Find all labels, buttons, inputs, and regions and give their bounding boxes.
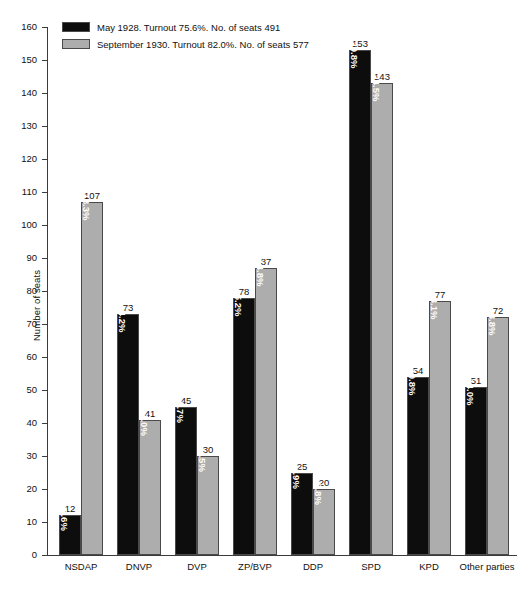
bar-percent-label: 15.2% (233, 289, 244, 316)
bar-group: 7815.2%8714.8%ZP/BVP (233, 27, 277, 555)
y-axis-tick (42, 159, 48, 160)
bar-percent-label: 4.5% (197, 450, 208, 472)
x-axis-category-label: Other parties (427, 561, 522, 572)
bar: 417.0% (139, 420, 161, 555)
bar-percent-label: 10.8% (407, 368, 418, 395)
bar-percent-label: 2.6% (59, 510, 70, 532)
bar: 15329.8% (349, 50, 371, 555)
bar-chart: Number of seats 010203040506070809010011… (0, 0, 522, 590)
bar-percent-label: 13.8% (487, 309, 498, 336)
legend-item: September 1930. Turnout 82.0%. No. of se… (62, 36, 309, 52)
bar-percent-label: 14.2% (117, 306, 128, 333)
y-axis-tick-label: 40 (4, 418, 37, 428)
y-axis-tick-label: 10 (4, 517, 37, 527)
bar: 254.9% (291, 473, 313, 556)
y-axis-tick (42, 27, 48, 28)
bar-group: 254.9%203.8%DDP (291, 27, 335, 555)
legend-swatch (62, 22, 90, 32)
y-axis-tick-label: 130 (4, 121, 37, 131)
y-axis-tick (42, 324, 48, 325)
legend: May 1928. Turnout 75.6%. No. of seats 49… (62, 19, 309, 53)
y-axis-tick-label: 100 (4, 220, 37, 230)
y-axis-tick (42, 357, 48, 358)
y-axis-tick-label: 70 (4, 319, 37, 329)
bar: 8714.8% (255, 268, 277, 555)
y-axis-tick (42, 390, 48, 391)
y-axis-tick (42, 423, 48, 424)
bar-group: 5410.8%7713.1%KPD (407, 27, 451, 555)
y-axis-tick (42, 60, 48, 61)
legend-label: May 1928. Turnout 75.6%. No. of seats 49… (97, 22, 280, 33)
y-axis-tick-label: 140 (4, 88, 37, 98)
bar-group: 15329.8%14324.5%SPD (349, 27, 393, 555)
y-axis-tick-label: 150 (4, 55, 37, 65)
y-axis-tick (42, 291, 48, 292)
y-axis-tick (42, 93, 48, 94)
bar-group: 458.7%304.5%DVP (175, 27, 219, 555)
y-axis-tick (42, 258, 48, 259)
bar: 5114.0% (465, 387, 487, 555)
y-axis-tick (42, 555, 48, 556)
bar-percent-label: 24.5% (371, 75, 382, 102)
y-axis-title: Number of seats (31, 246, 42, 366)
bar: 7213.8% (487, 317, 509, 555)
bar: 458.7% (175, 407, 197, 556)
y-axis-tick (42, 489, 48, 490)
y-axis-tick (42, 126, 48, 127)
bar-group: 122.6%10718.3%NSDAP (59, 27, 103, 555)
bar-percent-label: 14.0% (465, 378, 476, 405)
bar-percent-label: 7.0% (139, 414, 150, 436)
bar-percent-label: 3.8% (313, 483, 324, 505)
y-axis-tick-label: 110 (4, 187, 37, 197)
bar: 203.8% (313, 489, 335, 555)
y-axis-tick-label: 50 (4, 385, 37, 395)
bar: 5410.8% (407, 377, 429, 555)
y-axis-tick-label: 80 (4, 286, 37, 296)
y-axis-tick (42, 192, 48, 193)
y-axis-tick-label: 90 (4, 253, 37, 263)
y-axis-tick-label: 60 (4, 352, 37, 362)
bar-group: 7314.2%417.0%DNVP (117, 27, 161, 555)
y-axis-tick (42, 456, 48, 457)
bar-percent-label: 8.7% (175, 401, 186, 423)
legend-item: May 1928. Turnout 75.6%. No. of seats 49… (62, 19, 309, 35)
bar: 7815.2% (233, 298, 255, 555)
bar: 7713.1% (429, 301, 451, 555)
bar-percent-label: 18.3% (81, 193, 92, 220)
x-axis-line (47, 555, 517, 556)
bar: 122.6% (59, 515, 81, 555)
plot-area: 0102030405060708090100110120130140150160… (47, 27, 517, 555)
bar-percent-label: 4.9% (291, 467, 302, 489)
bar: 14324.5% (371, 83, 393, 555)
bar: 7314.2% (117, 314, 139, 555)
legend-label: September 1930. Turnout 82.0%. No. of se… (97, 39, 309, 50)
y-axis-tick-label: 0 (4, 550, 37, 560)
bar-percent-label: 13.1% (429, 292, 440, 319)
bar-percent-label: 14.8% (255, 259, 266, 286)
y-axis-tick (42, 522, 48, 523)
y-axis-tick-label: 160 (4, 22, 37, 32)
y-axis-tick-label: 120 (4, 154, 37, 164)
y-axis-tick (42, 225, 48, 226)
y-axis-tick-label: 30 (4, 451, 37, 461)
bar: 304.5% (197, 456, 219, 555)
legend-swatch (62, 39, 90, 49)
bar-percent-label: 29.8% (349, 42, 360, 69)
bar-group: 5114.0%7213.8%Other parties (465, 27, 509, 555)
y-axis-tick-label: 20 (4, 484, 37, 494)
bar: 10718.3% (81, 202, 103, 555)
